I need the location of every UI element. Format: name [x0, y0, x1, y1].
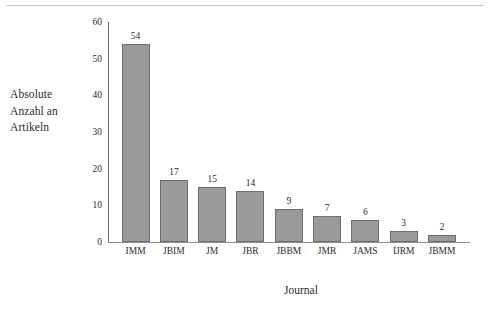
x-axis-category-label: JM — [206, 246, 218, 256]
bar-value-label: 17 — [169, 167, 179, 177]
x-axis-line — [108, 242, 470, 243]
bar-rectangle[interactable] — [351, 220, 379, 242]
bar-value-label: 6 — [363, 207, 368, 217]
bar-item[interactable]: 9 — [270, 22, 308, 242]
x-axis-category-label: JBMM — [429, 246, 456, 256]
y-axis-tick-label: 20 — [72, 164, 108, 174]
x-axis-category-label: JBBM — [276, 246, 301, 256]
bar-item[interactable]: 7 — [308, 22, 346, 242]
x-axis-category-labels: IMMJBIMJMJBRJBBMJMRJAMSIJRMJBMM — [108, 246, 470, 262]
bar-item[interactable]: 6 — [346, 22, 384, 242]
bar-item[interactable]: 2 — [423, 22, 461, 242]
bar-rectangle[interactable] — [160, 180, 188, 242]
bar-series: 5417151497632 — [108, 22, 470, 242]
bar-item[interactable]: 14 — [231, 22, 269, 242]
x-axis-category-label: IJRM — [393, 246, 415, 256]
bar-rectangle[interactable] — [313, 216, 341, 242]
y-axis-tick-label: 10 — [72, 200, 108, 210]
bar-rectangle[interactable] — [122, 44, 150, 242]
bar-item[interactable]: 3 — [385, 22, 423, 242]
bar-rectangle[interactable] — [275, 209, 303, 242]
bar-value-label: 9 — [286, 196, 291, 206]
bar-value-label: 3 — [401, 218, 406, 228]
x-axis-title-text: Journal — [172, 284, 318, 296]
bar-value-label: 7 — [325, 203, 330, 213]
bar-rectangle[interactable] — [236, 191, 264, 242]
y-axis-tick-label: 0 — [72, 237, 108, 247]
y-axis-tick-label: 40 — [72, 90, 108, 100]
x-axis-category-label: JBR — [242, 246, 258, 256]
bar-rectangle[interactable] — [428, 235, 456, 242]
bar-item[interactable]: 54 — [116, 22, 154, 242]
bar-value-label: 14 — [246, 178, 256, 188]
y-axis-tick-label: 50 — [72, 54, 108, 64]
bar-item[interactable]: 17 — [155, 22, 193, 242]
bar-rectangle[interactable] — [390, 231, 418, 242]
x-axis-category-label: IMM — [126, 246, 146, 256]
x-axis-category-label: JBIM — [163, 246, 185, 256]
bar-value-label: 2 — [440, 222, 445, 232]
bar-value-label: 15 — [207, 174, 217, 184]
bar-chart-figure: Absolute Anzahl an Artikeln 010203040506… — [0, 0, 490, 316]
y-axis-tick-label: 60 — [72, 17, 108, 27]
x-axis-title: Journal — [0, 284, 490, 296]
x-axis-category-label: JAMS — [353, 246, 377, 256]
y-axis-tick-label: 30 — [72, 127, 108, 137]
bar-value-label: 54 — [131, 31, 141, 41]
bar-item[interactable]: 15 — [193, 22, 231, 242]
top-divider-rule — [6, 5, 484, 6]
bar-rectangle[interactable] — [198, 187, 226, 242]
x-axis-category-label: JMR — [318, 246, 336, 256]
y-axis-title-line-2: Anzahl an — [10, 103, 88, 120]
